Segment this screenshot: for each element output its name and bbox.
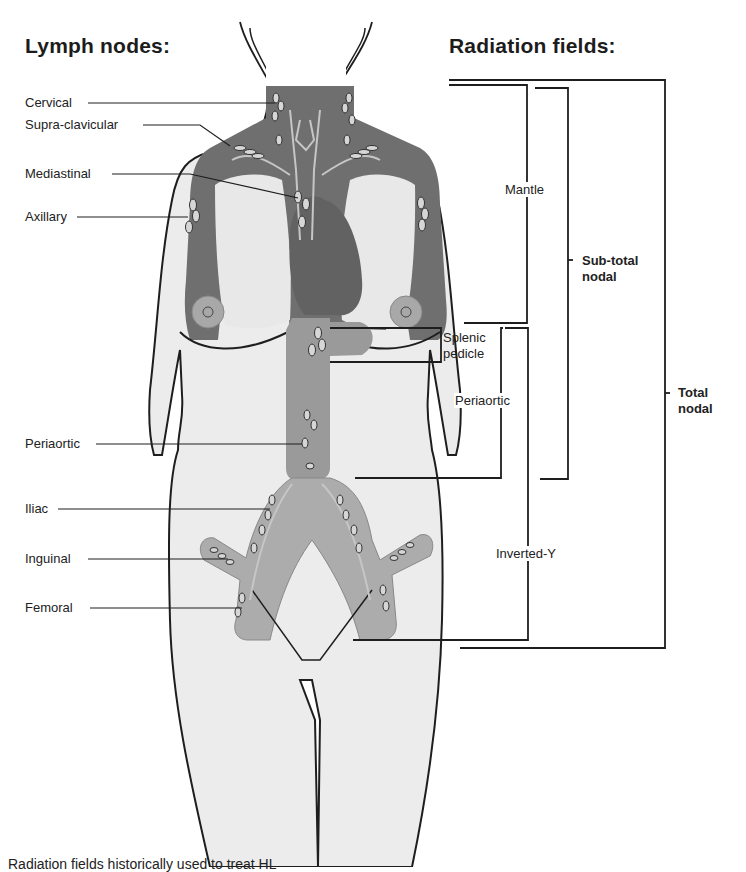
lymph-nodes-heading: Lymph nodes: bbox=[25, 34, 170, 58]
total-nodal-text: Total nodal bbox=[678, 385, 713, 417]
label-iliac: Iliac bbox=[25, 501, 48, 516]
label-inguinal: Inguinal bbox=[25, 551, 71, 566]
figure-caption: Radiation fields historically used to tr… bbox=[8, 856, 276, 872]
radiation-fields-heading: Radiation fields: bbox=[449, 34, 616, 58]
label-axillary: Axillary bbox=[25, 209, 67, 224]
splenic-pedicle-text: Splenic pedicle bbox=[443, 330, 486, 362]
field-label-mantle: Mantle bbox=[504, 182, 545, 197]
field-label-inverted-y: Inverted-Y bbox=[495, 546, 557, 561]
label-mediastinal: Mediastinal bbox=[25, 166, 91, 181]
label-cervical: Cervical bbox=[25, 95, 72, 110]
label-supraclavicular: Supra-clavicular bbox=[25, 117, 118, 132]
field-label-sub-total-nodal: Sub-total nodal bbox=[581, 253, 639, 285]
sub-total-nodal-text: Sub-total nodal bbox=[582, 253, 638, 285]
label-periaortic: Periaortic bbox=[25, 436, 80, 451]
field-label-total-nodal: Total nodal bbox=[677, 385, 714, 417]
field-label-splenic-pedicle: Splenic pedicle bbox=[442, 330, 487, 362]
label-femoral: Femoral bbox=[25, 600, 73, 615]
field-label-periaortic: Periaortic bbox=[454, 393, 511, 408]
